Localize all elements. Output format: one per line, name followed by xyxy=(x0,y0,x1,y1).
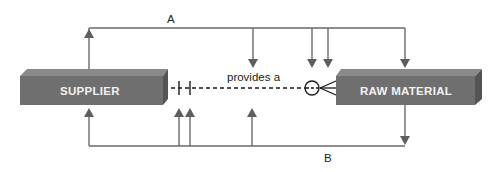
loop-a: A xyxy=(84,13,410,69)
arrow-down-icon xyxy=(307,59,317,68)
relationship-label: provides a xyxy=(227,71,281,83)
arrow-down-icon xyxy=(323,59,333,68)
arrow-down-icon xyxy=(248,59,258,68)
entity-supplier-top-face xyxy=(20,69,168,76)
entity-raw-material-label: RAW MATERIAL xyxy=(360,85,452,97)
loop-b-label: B xyxy=(324,152,332,164)
arrow-up-icon xyxy=(84,108,94,117)
relationship-provides: provides a xyxy=(164,71,336,95)
arrow-down-icon xyxy=(400,136,410,145)
er-diagram: A B provides a xyxy=(0,0,499,172)
entity-supplier-label: SUPPLIER xyxy=(60,85,120,97)
crows-foot-icon xyxy=(320,81,336,95)
entity-raw-material[interactable]: RAW MATERIAL xyxy=(336,69,482,105)
arrow-up-icon xyxy=(84,29,94,38)
loop-b: B xyxy=(84,105,410,164)
arrow-up-icon xyxy=(247,108,257,117)
entity-raw-material-top-face xyxy=(336,69,482,76)
arrow-up-icon xyxy=(174,108,184,117)
entity-supplier[interactable]: SUPPLIER xyxy=(20,69,168,105)
arrow-up-icon xyxy=(185,108,195,117)
arrow-down-icon xyxy=(400,59,410,68)
loop-a-label: A xyxy=(167,13,175,25)
